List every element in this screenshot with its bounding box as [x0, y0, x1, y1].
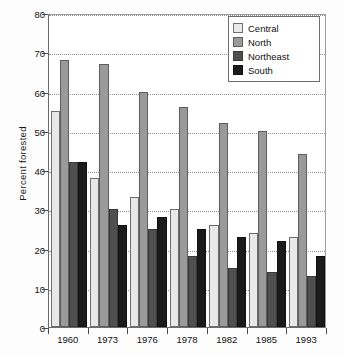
legend-item-north[interactable]: North	[233, 35, 314, 49]
legend-swatch-icon	[233, 51, 243, 61]
y-axis-tick-label: 30	[5, 205, 45, 216]
x-axis-tick-label: 1993	[296, 334, 317, 345]
bar-northeast-1978[interactable]	[188, 256, 197, 327]
bar-northeast-1993[interactable]	[307, 276, 316, 327]
x-axis-tick-mark	[127, 328, 128, 334]
bar-south-1993[interactable]	[316, 256, 325, 327]
legend-item-label: South	[248, 65, 273, 76]
bar-south-1985[interactable]	[277, 241, 286, 327]
x-axis-tick-label: 1960	[57, 334, 78, 345]
x-axis-tick-mark	[48, 328, 49, 334]
y-axis-tick-label: 40	[5, 166, 45, 177]
x-axis-tick-mark	[167, 328, 168, 334]
bar-group	[49, 15, 89, 327]
x-axis-tick-label: 1973	[97, 334, 118, 345]
x-axis-tick-label: 1985	[256, 334, 277, 345]
bar-north-1973[interactable]	[99, 64, 108, 327]
bar-northeast-1976[interactable]	[148, 229, 157, 327]
bar-north-1978[interactable]	[179, 107, 188, 327]
bar-northeast-1985[interactable]	[267, 272, 276, 327]
y-axis-tick-label: 50	[5, 126, 45, 137]
bar-north-1993[interactable]	[298, 154, 307, 327]
bar-south-1982[interactable]	[237, 237, 246, 327]
x-axis-tick-mark	[326, 328, 327, 334]
legend-swatch-icon	[233, 65, 243, 75]
x-axis-tick-mark	[286, 328, 287, 334]
bar-group	[89, 15, 129, 327]
bar-central-1993[interactable]	[289, 237, 298, 327]
y-axis-tick-label: 60	[5, 87, 45, 98]
legend-item-northeast[interactable]: Northeast	[233, 49, 314, 63]
x-axis-tick-mark	[247, 328, 248, 334]
x-axis-tick-mark	[207, 328, 208, 334]
bar-south-1973[interactable]	[118, 225, 127, 327]
bar-central-1960[interactable]	[51, 111, 60, 327]
bar-northeast-1960[interactable]	[69, 162, 78, 327]
bar-south-1976[interactable]	[157, 217, 166, 327]
bar-south-1978[interactable]	[197, 229, 206, 327]
y-axis-tick-label: 80	[5, 9, 45, 20]
x-axis-tick-label: 1982	[216, 334, 237, 345]
legend-item-label: Northeast	[248, 51, 289, 62]
bar-north-1960[interactable]	[60, 60, 69, 327]
bar-central-1985[interactable]	[249, 233, 258, 327]
legend-item-south[interactable]: South	[233, 63, 314, 77]
bar-central-1976[interactable]	[130, 197, 139, 327]
bar-northeast-1973[interactable]	[109, 209, 118, 327]
bar-south-1960[interactable]	[78, 162, 87, 327]
figure: Percent forested 01020304050607080 19601…	[0, 0, 344, 355]
bar-central-1982[interactable]	[209, 225, 218, 327]
legend-item-central[interactable]: Central	[233, 21, 314, 35]
legend: CentralNorthNortheastSouth	[228, 16, 320, 82]
bar-group	[128, 15, 168, 327]
legend-item-label: North	[248, 37, 271, 48]
bar-north-1982[interactable]	[219, 123, 228, 327]
legend-swatch-icon	[233, 23, 243, 33]
legend-item-label: Central	[248, 23, 279, 34]
bar-central-1973[interactable]	[90, 178, 99, 327]
y-axis-tick-label: 10	[5, 283, 45, 294]
y-axis-tick-label: 70	[5, 48, 45, 59]
x-axis-tick-mark	[88, 328, 89, 334]
x-axis-tick-label: 1978	[176, 334, 197, 345]
legend-swatch-icon	[233, 37, 243, 47]
bar-northeast-1982[interactable]	[228, 268, 237, 327]
y-axis-tick-label: 20	[5, 244, 45, 255]
x-axis-tick-label: 1976	[137, 334, 158, 345]
bar-north-1985[interactable]	[258, 131, 267, 327]
bar-central-1978[interactable]	[170, 209, 179, 327]
bar-group	[168, 15, 208, 327]
bar-north-1976[interactable]	[139, 92, 148, 328]
y-axis-tick-label: 0	[5, 323, 45, 334]
